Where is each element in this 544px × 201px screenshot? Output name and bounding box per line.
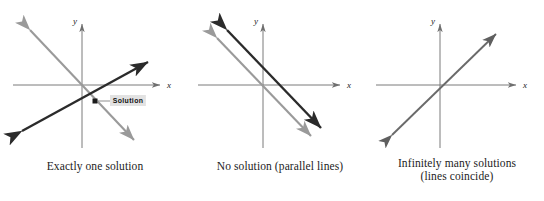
caption-infinitely-many-solutions: Infinitely many solutions (lines coincid… (370, 157, 544, 183)
plot-svg-exactly-one-solution: x y (0, 0, 190, 155)
plot-infinitely-many-solutions: x y (370, 0, 544, 155)
panel-infinitely-many-solutions: x y Infinitely many solutions (lines coi… (370, 0, 544, 201)
caption-no-solution: No solution (parallel lines) (190, 160, 370, 173)
plot-svg-infinitely-many-solutions: x y (370, 0, 544, 155)
plot-svg-no-solution: x y (190, 0, 370, 155)
caption-line-1: Infinitely many solutions (398, 157, 516, 169)
caption-line-1: Exactly one solution (47, 160, 144, 172)
panel-no-solution: x y No solution (parallel lines) (190, 0, 370, 201)
caption-line-2: (lines coincide) (370, 170, 544, 183)
plot-exactly-one-solution: x y (0, 0, 190, 155)
x-axis-label: x (346, 80, 351, 90)
line-parallel-light (217, 38, 311, 136)
solution-annotation-label: Solution (110, 95, 146, 106)
x-axis-label: x (522, 80, 527, 90)
plot-no-solution: x y (190, 0, 370, 155)
figure-systems-of-equations-solutions: x y Solution Exactly one solution (0, 0, 544, 201)
line-parallel-dark (227, 30, 321, 128)
caption-exactly-one-solution: Exactly one solution (0, 160, 190, 173)
caption-line-1: No solution (parallel lines) (217, 160, 343, 172)
y-axis-label: y (72, 16, 77, 26)
y-axis-label: y (253, 16, 258, 26)
y-axis-label: y (430, 16, 435, 26)
solution-point-marker (93, 99, 98, 104)
x-axis-label: x (166, 80, 171, 90)
panel-exactly-one-solution: x y Solution Exactly one solution (0, 0, 190, 201)
